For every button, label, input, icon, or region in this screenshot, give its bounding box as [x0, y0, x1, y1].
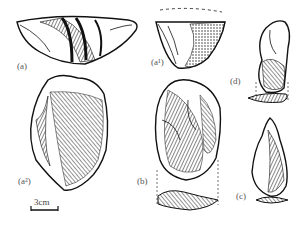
tool-a2 — [31, 75, 108, 190]
scale-bar-label: 3cm — [34, 197, 50, 207]
tool-b — [156, 80, 221, 210]
label-d: (d) — [230, 76, 241, 86]
tool-a — [17, 16, 137, 64]
tool-d — [248, 21, 289, 103]
stone-tools-drawing — [0, 0, 308, 228]
stone-tools-figure: (a) (a¹) (a²) (b) (c) (d) 3cm — [0, 0, 308, 228]
label-a2: (a²) — [18, 176, 31, 186]
label-a1: (a¹) — [151, 57, 164, 67]
label-a: (a) — [17, 61, 27, 71]
label-b: (b) — [137, 176, 148, 186]
tool-a1 — [156, 8, 225, 68]
tool-c — [252, 118, 288, 203]
label-c: (c) — [236, 191, 246, 201]
